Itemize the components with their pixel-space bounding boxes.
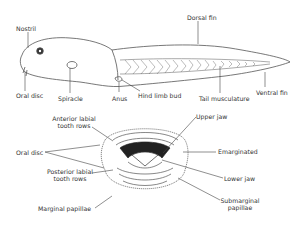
label-hind-limb-bud: Hind limb bud — [138, 92, 181, 99]
label-anus: Anus — [112, 95, 127, 102]
label-tail-musculature: Tail musculature — [199, 95, 250, 102]
label-marginal-papillae: Marginal papillae — [38, 205, 91, 212]
label-submarginal-papillae: Submarginal papillae — [218, 197, 262, 211]
label-line-2: tooth rows — [45, 175, 95, 182]
label-line-2: tooth rows — [50, 122, 98, 129]
label-line-2: papillae — [218, 204, 262, 211]
label-line-1: Posterior labial — [45, 168, 95, 175]
tadpole-figure — [20, 38, 290, 87]
label-oral-disc: Oral disc — [16, 92, 43, 99]
label-ventral-fin: Ventral fin — [256, 89, 288, 96]
label-line-1: Anterior labial — [50, 115, 98, 122]
label-emarginated: Emarginated — [218, 148, 258, 155]
label-oral-disc-mouth: Oral disc — [16, 149, 43, 156]
oral-disc-figure — [101, 129, 188, 189]
label-spiracle: Spiracle — [58, 95, 83, 102]
label-upper-jaw: Upper jaw — [196, 113, 227, 120]
label-line-1: Submarginal — [218, 197, 262, 204]
label-nostril: Nostril — [16, 25, 36, 32]
label-anterior-labial-tooth-rows: Anterior labial tooth rows — [50, 115, 98, 129]
label-dorsal-fin: Dorsal fin — [187, 14, 217, 21]
mouth-leaders — [45, 117, 223, 208]
label-lower-jaw: Lower jaw — [224, 175, 255, 182]
label-posterior-labial-tooth-rows: Posterior labial tooth rows — [45, 168, 95, 182]
tadpole-diagram — [0, 0, 305, 230]
